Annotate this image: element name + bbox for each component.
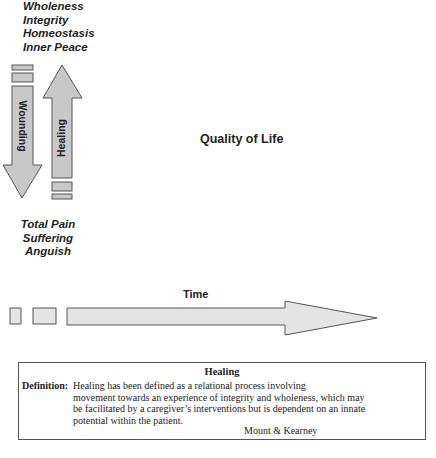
definition-line-4: potential within the patient.: [73, 415, 183, 426]
healing-label: Healing: [55, 119, 67, 157]
negative-states-list: Total Pain Suffering Anguish: [18, 218, 78, 259]
definition-title: Healing: [19, 366, 425, 377]
definition-line-3: be facilitated by a caregiver’s interven…: [73, 403, 365, 414]
definition-attribution: Mount & Kearney: [244, 425, 317, 436]
diagram-arrows: Wounding Healing: [0, 0, 436, 360]
wounding-label: Wounding: [17, 100, 29, 151]
state-total-pain: Total Pain: [18, 218, 78, 232]
time-arrow-icon: [10, 301, 377, 335]
time-label: Time: [183, 288, 208, 300]
definition-line-1: Healing has been defined as a relational…: [73, 380, 306, 391]
state-suffering: Suffering: [18, 232, 78, 246]
definition-label: Definition:: [22, 380, 68, 391]
definition-box: Healing Definition: Healing has been def…: [18, 362, 426, 440]
definition-line-2: movement towards an experience of integr…: [73, 392, 365, 403]
state-anguish: Anguish: [18, 245, 78, 259]
quality-of-life-label: Quality of Life: [200, 132, 283, 146]
